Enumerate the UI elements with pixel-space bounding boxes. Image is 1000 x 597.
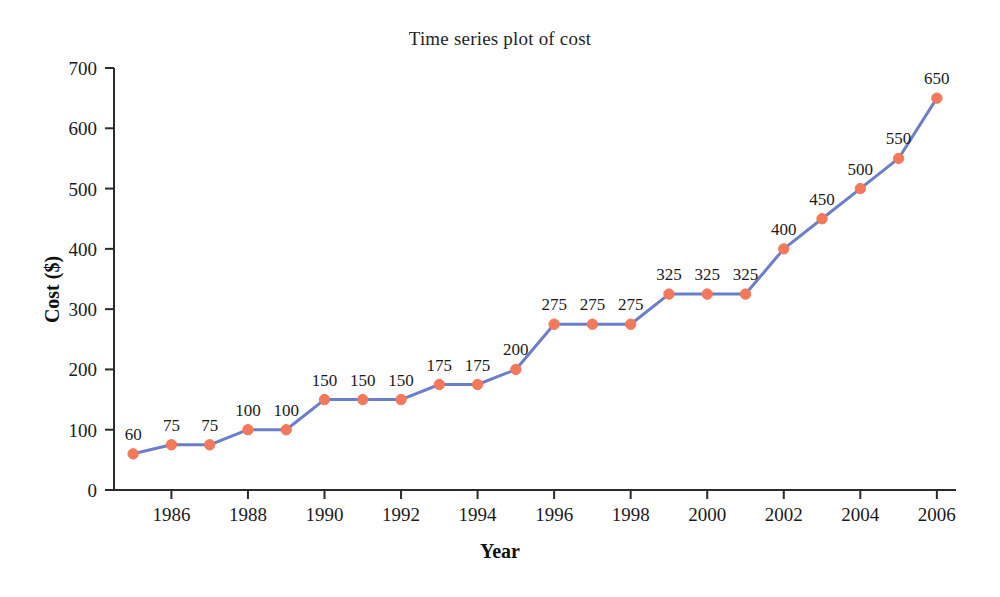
axis-spines [114,68,956,490]
x-tick-label: 1998 [612,504,650,525]
data-point [281,425,291,435]
x-tick-label: 1996 [535,504,573,525]
data-point-label: 325 [733,265,759,284]
data-point [740,289,750,299]
data-point-label: 325 [694,265,720,284]
x-tick-label: 1986 [152,504,190,525]
data-point-label: 100 [273,401,299,420]
x-axis-ticks: 1986198819901992199419961998200020022004… [152,490,955,525]
data-point [204,440,214,450]
x-tick-label: 2004 [841,504,880,525]
x-tick-label: 2006 [918,504,956,525]
data-point [128,449,138,459]
y-tick-label: 600 [69,118,98,139]
x-tick-label: 1994 [459,504,498,525]
data-point [358,394,368,404]
data-point-label: 325 [656,265,682,284]
data-point-label: 150 [388,371,414,390]
data-point [166,440,176,450]
y-tick-label: 300 [69,299,98,320]
x-tick-label: 2002 [765,504,803,525]
x-tick-label: 1990 [306,504,344,525]
data-point-label: 200 [503,340,529,359]
data-point-label: 275 [580,295,606,314]
data-point-label: 650 [924,69,950,88]
data-point [396,394,406,404]
y-tick-label: 200 [69,359,98,380]
data-point [587,319,597,329]
data-point-label: 75 [163,416,180,435]
y-tick-label: 500 [69,179,98,200]
y-tick-label: 0 [88,480,98,501]
x-tick-label: 1992 [382,504,420,525]
data-point [664,289,674,299]
data-point-label: 100 [235,401,261,420]
data-point [243,425,253,435]
data-point-label: 175 [427,356,453,375]
data-point [702,289,712,299]
data-point-labels: 6075751001001501501501751752002752752753… [125,69,950,444]
y-tick-label: 400 [69,239,98,260]
data-point [319,394,329,404]
data-point-label: 175 [465,356,491,375]
plot-area: 0100200300400500600700 19861988199019921… [0,0,1000,597]
data-point-label: 275 [618,295,644,314]
data-point-label: 500 [848,160,874,179]
data-point [932,93,942,103]
data-point-label: 400 [771,220,797,239]
data-point [855,183,865,193]
data-point-label: 550 [886,129,912,148]
data-point-label: 275 [541,295,567,314]
data-point [549,319,559,329]
y-tick-label: 100 [69,420,98,441]
x-tick-label: 1988 [229,504,267,525]
y-axis-ticks: 0100200300400500600700 [69,58,115,501]
data-point [893,153,903,163]
data-point [625,319,635,329]
x-tick-label: 2000 [688,504,726,525]
data-point [434,379,444,389]
chart-figure: Time series plot of cost Cost ($) Year 0… [0,0,1000,597]
data-point-label: 60 [125,425,142,444]
data-point-label: 450 [809,190,835,209]
data-point [779,244,789,254]
y-tick-label: 700 [69,58,98,79]
data-point-label: 75 [201,416,218,435]
data-point-label: 150 [350,371,376,390]
data-point-label: 150 [312,371,338,390]
data-point [472,379,482,389]
data-point [817,214,827,224]
data-point [511,364,521,374]
